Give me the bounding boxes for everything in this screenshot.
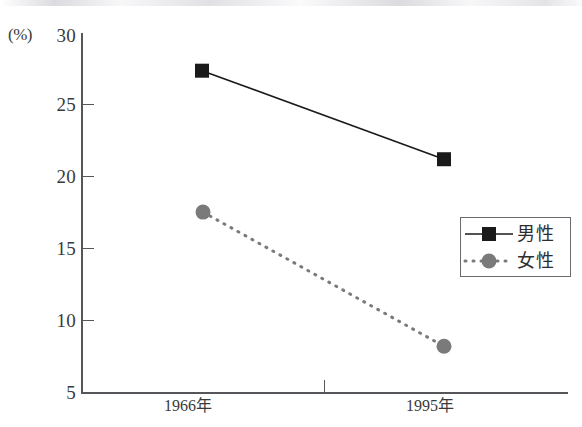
legend-sample-male: [461, 223, 517, 245]
series-male: [195, 64, 451, 167]
male-line-segment: [202, 71, 444, 160]
legend-label-female: 女性: [517, 252, 554, 270]
legend-sample-female: [461, 250, 517, 272]
legend-item-male: 男性: [461, 220, 572, 248]
legend-item-female: 女性: [461, 247, 572, 275]
female-marker-1995: [437, 339, 452, 354]
legend-label-male: 男性: [517, 225, 554, 243]
female-line-segment: [203, 212, 444, 346]
plot-area: [0, 0, 582, 427]
female-marker-1966: [196, 205, 211, 220]
chart-legend: 男性 女性: [460, 217, 571, 277]
line-chart: (%) 30 25 20 15 10 5 1966年 1995年: [0, 0, 582, 427]
male-marker-1995: [437, 152, 451, 166]
series-female: [196, 205, 452, 354]
male-marker-1966: [195, 64, 209, 78]
